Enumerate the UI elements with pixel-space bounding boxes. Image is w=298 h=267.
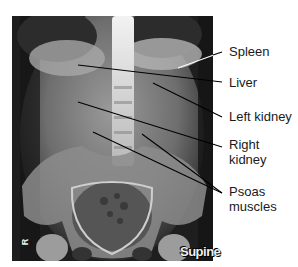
label-psoas-line1: Psoas	[229, 184, 277, 199]
label-psoas-muscles: Psoas muscles	[229, 184, 277, 214]
xray-image	[12, 16, 213, 261]
label-right-kidney: Right kidney	[229, 137, 267, 167]
label-left-kidney: Left kidney	[229, 109, 292, 124]
view-label: Supine	[180, 244, 220, 259]
spleen-leader-line-outside	[213, 52, 222, 55]
side-marker: R	[20, 239, 30, 246]
label-liver: Liver	[229, 75, 257, 90]
label-right-kidney-line2: kidney	[229, 152, 267, 167]
label-psoas-line2: muscles	[229, 199, 277, 214]
xray-graphic	[12, 16, 213, 261]
label-right-kidney-line1: Right	[229, 137, 267, 152]
label-spleen: Spleen	[229, 44, 269, 59]
